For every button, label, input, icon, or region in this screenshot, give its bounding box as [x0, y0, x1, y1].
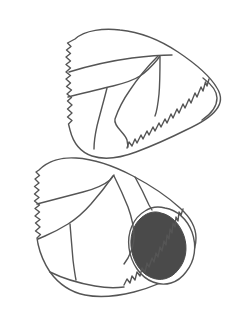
upper-roll — [66, 29, 220, 158]
line-art-svg — [0, 0, 240, 313]
illustration-canvas: Two Wrapped Rolls Line Drawing Black and… — [0, 0, 240, 313]
lower-roll — [35, 158, 197, 297]
